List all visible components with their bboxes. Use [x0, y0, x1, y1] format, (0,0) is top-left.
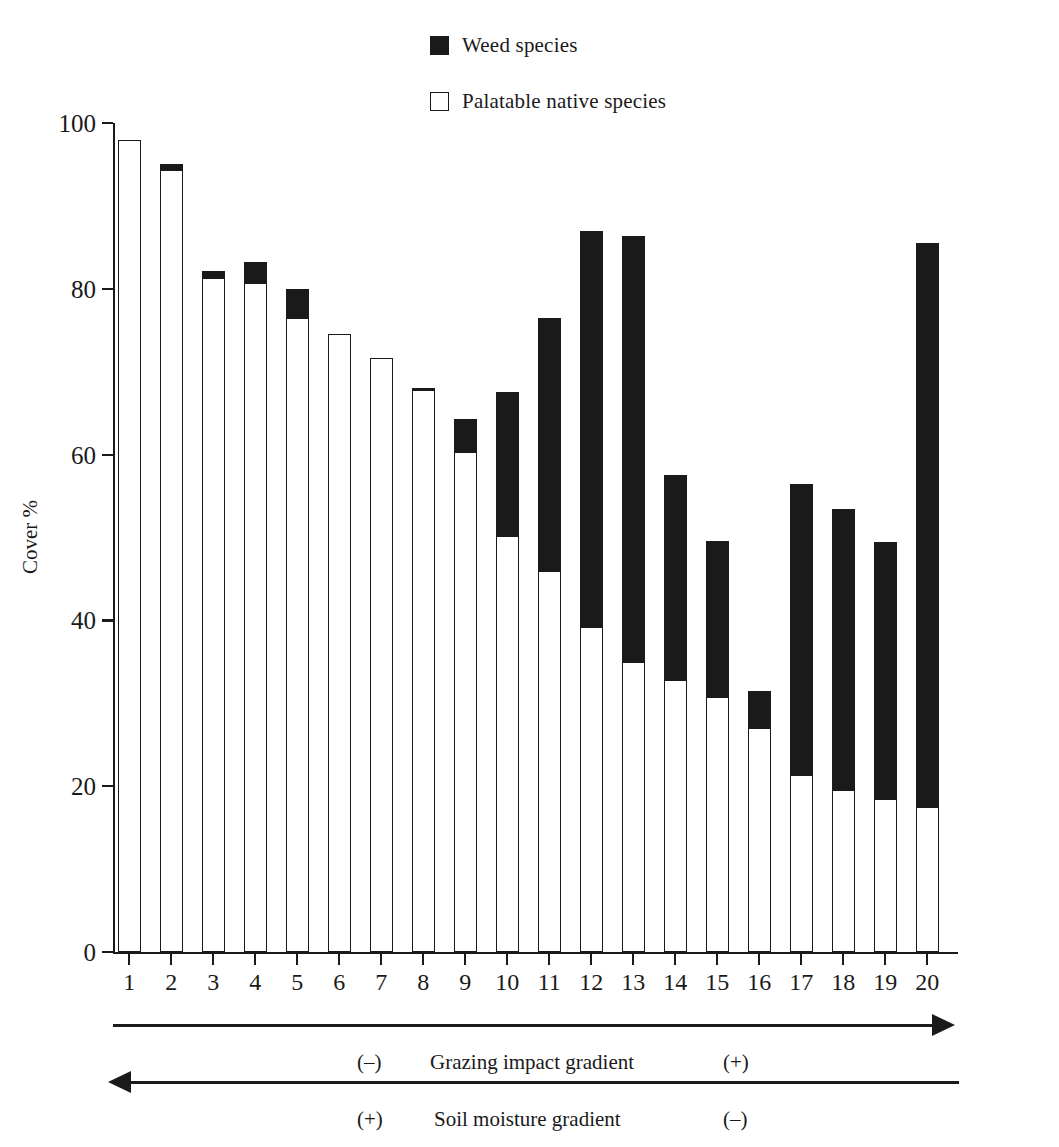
- bar-column[interactable]: [496, 392, 519, 952]
- bar-segment-weed-species[interactable]: [454, 419, 477, 452]
- bar-column[interactable]: [706, 541, 729, 952]
- x-axis-tick-label: 19: [873, 970, 897, 994]
- bar-segment-palatable-native-species[interactable]: [412, 390, 435, 952]
- y-axis-tick-label: 0: [84, 940, 97, 965]
- bar-column[interactable]: [664, 475, 687, 952]
- legend-item-palatable-native-species: Palatable native species: [430, 86, 666, 116]
- bar-segment-palatable-native-species[interactable]: [538, 571, 561, 952]
- bar-segment-weed-species[interactable]: [496, 392, 519, 535]
- x-axis-tick-label: 2: [165, 970, 177, 994]
- bar-segment-weed-species[interactable]: [580, 231, 603, 627]
- bar-segment-weed-species[interactable]: [706, 541, 729, 697]
- x-axis-tick: [296, 954, 298, 965]
- bar-segment-palatable-native-species[interactable]: [706, 697, 729, 952]
- bar-segment-palatable-native-species[interactable]: [160, 170, 183, 952]
- bar-column[interactable]: [202, 271, 225, 952]
- x-axis-tick: [422, 954, 424, 965]
- bar-segment-palatable-native-species[interactable]: [790, 775, 813, 952]
- bar-column[interactable]: [286, 289, 309, 952]
- bar-column[interactable]: [622, 236, 645, 952]
- moisture-minus-sign: (–): [723, 1109, 748, 1130]
- plot-area: 020406080100 123456789101112131415161718…: [113, 123, 958, 954]
- y-axis-tick-label: 40: [71, 608, 96, 633]
- bar-column[interactable]: [454, 419, 477, 952]
- bar-column[interactable]: [748, 691, 771, 952]
- y-axis-tick: [102, 785, 113, 787]
- y-axis-tick-label: 20: [71, 774, 96, 799]
- x-axis-tick: [128, 954, 130, 965]
- bar-column[interactable]: [790, 484, 813, 952]
- moisture-arrow-line: [130, 1081, 959, 1084]
- grazing-gradient-title: Grazing impact gradient: [430, 1052, 634, 1073]
- x-axis-tick-label: 14: [663, 970, 687, 994]
- bar-segment-weed-species[interactable]: [790, 484, 813, 776]
- bar-segment-palatable-native-species[interactable]: [580, 627, 603, 952]
- bar-column[interactable]: [538, 318, 561, 952]
- x-axis-tick-label: 12: [579, 970, 603, 994]
- y-axis-tick: [102, 951, 113, 953]
- x-axis-tick: [338, 954, 340, 965]
- bar-column[interactable]: [244, 262, 267, 952]
- bar-column[interactable]: [832, 509, 855, 953]
- arrow-left-icon: [108, 1071, 131, 1093]
- x-axis-tick: [170, 954, 172, 965]
- bar-segment-weed-species[interactable]: [916, 243, 939, 807]
- bar-column[interactable]: [370, 358, 393, 952]
- arrow-right-icon: [932, 1014, 955, 1036]
- x-axis-tick-label: 20: [915, 970, 939, 994]
- bar-column[interactable]: [118, 140, 141, 952]
- bar-segment-palatable-native-species[interactable]: [496, 536, 519, 952]
- bar-segment-palatable-native-species[interactable]: [454, 452, 477, 952]
- x-axis-tick-label: 3: [207, 970, 219, 994]
- bar-segment-palatable-native-species[interactable]: [916, 807, 939, 952]
- moisture-plus-sign: (+): [357, 1109, 383, 1130]
- bar-segment-palatable-native-species[interactable]: [874, 799, 897, 952]
- bar-segment-palatable-native-species[interactable]: [832, 790, 855, 952]
- x-axis-tick: [632, 954, 634, 965]
- x-axis-tick: [212, 954, 214, 965]
- bar-segment-palatable-native-species[interactable]: [202, 278, 225, 952]
- x-axis-tick: [842, 954, 844, 965]
- x-axis-tick: [548, 954, 550, 965]
- bar-column[interactable]: [412, 388, 435, 952]
- bar-segment-palatable-native-species[interactable]: [328, 334, 351, 952]
- bar-segment-weed-species[interactable]: [664, 475, 687, 680]
- bar-column[interactable]: [916, 243, 939, 952]
- x-axis-tick: [590, 954, 592, 965]
- y-axis-tick: [102, 122, 113, 124]
- bar-segment-weed-species[interactable]: [538, 318, 561, 571]
- filled-square-icon: [430, 36, 449, 55]
- bar-segment-palatable-native-species[interactable]: [622, 662, 645, 952]
- bar-segment-palatable-native-species[interactable]: [286, 318, 309, 952]
- x-axis-tick-label: 9: [459, 970, 471, 994]
- bar-segment-weed-species[interactable]: [748, 691, 771, 728]
- cover-percent-stacked-bar-chart: Weed species Palatable native species Co…: [0, 0, 1059, 1147]
- x-axis-tick-label: 5: [291, 970, 303, 994]
- bar-segment-palatable-native-species[interactable]: [370, 358, 393, 952]
- moisture-gradient-title: Soil moisture gradient: [434, 1109, 621, 1130]
- bar-segment-weed-species[interactable]: [286, 289, 309, 318]
- x-axis-tick-label: 13: [621, 970, 645, 994]
- x-axis-line: [113, 952, 958, 954]
- bar-column[interactable]: [874, 542, 897, 952]
- bar-segment-weed-species[interactable]: [874, 542, 897, 799]
- legend-label-weed-species: Weed species: [462, 35, 578, 56]
- bar-segment-palatable-native-species[interactable]: [244, 283, 267, 952]
- grazing-plus-sign: (+): [723, 1052, 749, 1073]
- bar-column[interactable]: [160, 164, 183, 952]
- bar-column[interactable]: [328, 334, 351, 952]
- bar-segment-weed-species[interactable]: [202, 271, 225, 278]
- x-axis-tick-label: 4: [249, 970, 261, 994]
- bar-segment-weed-species[interactable]: [244, 262, 267, 283]
- bar-segment-palatable-native-species[interactable]: [118, 140, 141, 952]
- y-axis-tick: [102, 288, 113, 290]
- bar-column[interactable]: [580, 231, 603, 952]
- x-axis-tick: [758, 954, 760, 965]
- bar-segment-weed-species[interactable]: [622, 236, 645, 662]
- bar-segment-weed-species[interactable]: [832, 509, 855, 791]
- x-axis-tick: [674, 954, 676, 965]
- bar-segment-palatable-native-species[interactable]: [748, 728, 771, 952]
- y-axis-title: Cover %: [18, 500, 43, 574]
- x-axis-tick-label: 15: [705, 970, 729, 994]
- bar-segment-palatable-native-species[interactable]: [664, 680, 687, 952]
